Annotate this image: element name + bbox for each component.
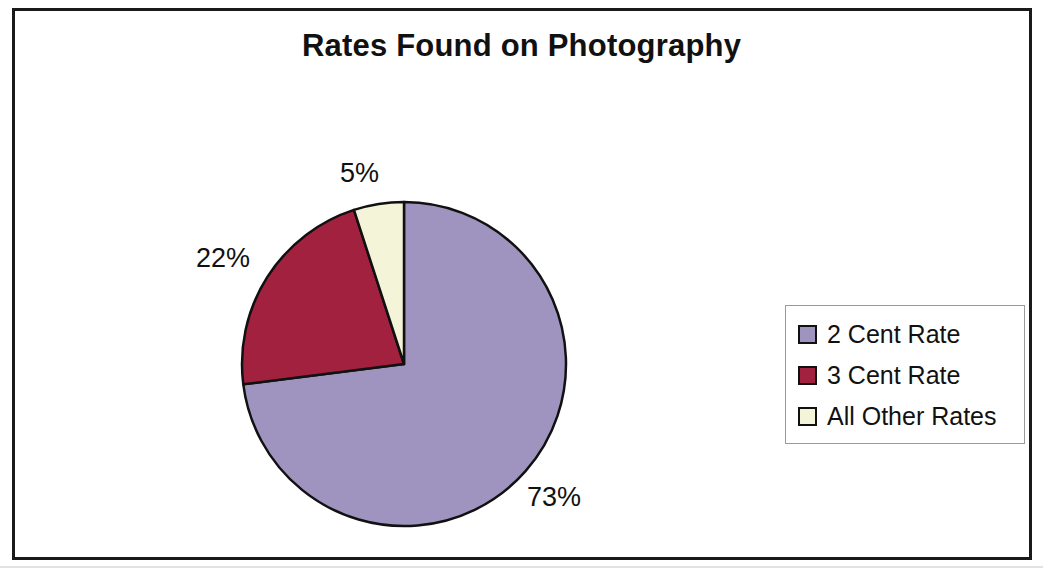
pie-data-label-3-cent-rate: 22%	[196, 243, 250, 274]
legend-swatch-icon-3-cent-rate	[798, 366, 817, 385]
legend-label-2-cent-rate: 2 Cent Rate	[827, 322, 960, 347]
legend-item-3-cent-rate: 3 Cent Rate	[798, 355, 1024, 396]
pie-data-label-2-cent-rate: 73%	[527, 482, 581, 513]
chart-screenshot: Rates Found on Photography 5% 22% 73% 2 …	[0, 0, 1043, 571]
legend-item-2-cent-rate: 2 Cent Rate	[798, 314, 1024, 355]
pie-chart-svg	[236, 196, 572, 532]
scan-artifact-line	[0, 566, 1043, 568]
pie-data-label-all-other-rates: 5%	[340, 158, 379, 189]
legend-item-all-other-rates: All Other Rates	[798, 396, 1024, 437]
page-title: Rates Found on Photography	[0, 28, 1043, 64]
legend-swatch-icon-2-cent-rate	[798, 325, 817, 344]
pie-slice-group	[242, 202, 566, 526]
chart-legend: 2 Cent Rate 3 Cent Rate All Other Rates	[785, 305, 1025, 444]
pie-chart	[236, 196, 572, 532]
legend-swatch-icon-all-other-rates	[798, 407, 817, 426]
legend-label-all-other-rates: All Other Rates	[827, 404, 997, 429]
legend-label-3-cent-rate: 3 Cent Rate	[827, 363, 960, 388]
